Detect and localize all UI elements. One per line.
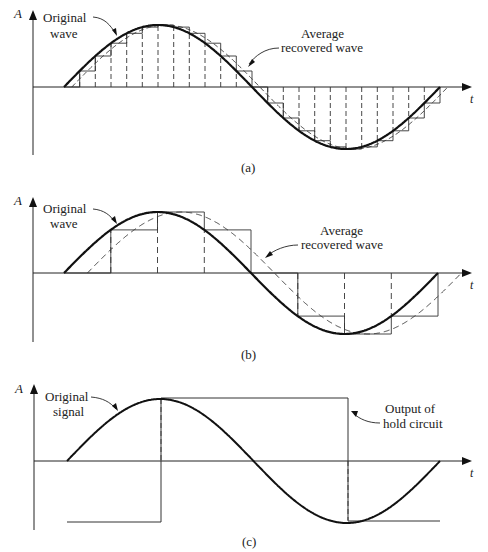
x-axis-label: t bbox=[470, 278, 474, 292]
panel-a: A t Original wave Average recovered wave… bbox=[13, 6, 474, 175]
panel-c: A t Original signal Output of hold circu… bbox=[14, 381, 474, 549]
pointer-arrowhead-icon bbox=[112, 403, 118, 411]
annotation-hold-output-line2: hold circuit bbox=[383, 416, 443, 431]
panel-caption: (c) bbox=[242, 534, 256, 549]
y-axis-arrow-icon bbox=[30, 384, 38, 394]
annotation-original-signal-line2: signal bbox=[53, 404, 84, 419]
annotation-pointer-right bbox=[354, 414, 380, 423]
annotation-original-wave-line1: Original bbox=[43, 201, 87, 216]
y-axis bbox=[29, 10, 37, 155]
annotation-original-wave-line2: wave bbox=[50, 26, 78, 41]
annotation-original-wave-line2: wave bbox=[50, 216, 78, 231]
annotation-original-wave-line1: Original bbox=[43, 10, 87, 25]
annotation-pointer-left bbox=[93, 209, 115, 222]
sample-and-hold-figure: A t Original wave Average recovered wave… bbox=[0, 0, 488, 552]
annotation-recovered-line2: recovered wave bbox=[301, 237, 383, 252]
annotation-pointer-left bbox=[91, 397, 116, 409]
panel-caption: (a) bbox=[241, 160, 255, 175]
annotation-recovered-line1: Average bbox=[301, 26, 344, 41]
x-axis-label: t bbox=[470, 466, 474, 480]
y-axis bbox=[30, 384, 38, 530]
y-axis-label: A bbox=[13, 193, 22, 208]
y-axis-label: A bbox=[14, 381, 23, 396]
x-axis-arrow-icon bbox=[462, 83, 472, 91]
pointer-arrowhead-icon bbox=[111, 216, 117, 224]
annotation-recovered-line2: recovered wave bbox=[281, 40, 363, 55]
y-axis-label: A bbox=[13, 6, 22, 21]
x-axis-label: t bbox=[470, 92, 474, 106]
x-axis-arrow-icon bbox=[462, 457, 472, 465]
figure-canvas: A t Original wave Average recovered wave… bbox=[0, 0, 488, 552]
y-axis bbox=[29, 197, 37, 342]
pointer-arrowhead-icon bbox=[248, 59, 255, 67]
annotation-original-signal-line1: Original bbox=[45, 389, 89, 404]
annotation-hold-output-line1: Output of bbox=[385, 401, 436, 416]
annotation-recovered-line1: Average bbox=[320, 223, 363, 238]
annotation-pointer-left bbox=[93, 17, 116, 34]
panel-caption: (b) bbox=[241, 347, 256, 362]
y-axis-arrow-icon bbox=[29, 10, 37, 20]
panel-b: A t Original wave Average recovered wave… bbox=[13, 193, 474, 362]
y-axis-arrow-icon bbox=[29, 197, 37, 207]
sample-lines bbox=[161, 399, 348, 520]
x-axis-arrow-icon bbox=[462, 269, 472, 277]
